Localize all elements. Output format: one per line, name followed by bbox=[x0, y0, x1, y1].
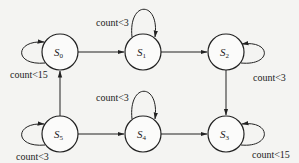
state-diagram: S0 S1 S2 S3 S4 S5 count<15 count<3 count… bbox=[0, 0, 299, 163]
state-s2: S2 bbox=[208, 34, 244, 70]
loop-label-s5: count<3 bbox=[16, 151, 49, 162]
self-loop-s1 bbox=[132, 9, 156, 37]
self-loop-s4 bbox=[132, 91, 156, 119]
loop-label-s0: count<15 bbox=[10, 69, 48, 80]
state-s4: S4 bbox=[125, 116, 161, 152]
state-s5: S5 bbox=[42, 116, 78, 152]
state-s0: S0 bbox=[42, 34, 78, 70]
state-s1: S1 bbox=[125, 34, 161, 70]
loop-label-s4: count<3 bbox=[96, 92, 129, 103]
state-s3: S3 bbox=[208, 116, 244, 152]
loop-label-s2: count<3 bbox=[253, 72, 286, 83]
loop-label-s3: count<15 bbox=[252, 149, 290, 160]
loop-label-s1: count<3 bbox=[96, 17, 129, 28]
